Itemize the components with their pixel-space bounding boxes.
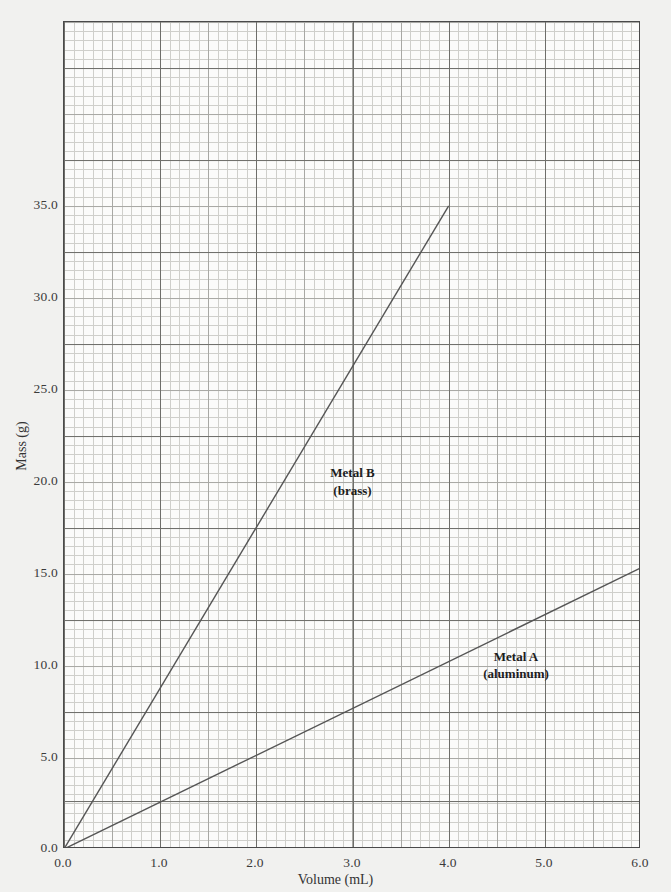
y-tick-label: 30.0 bbox=[12, 289, 58, 305]
series-lines bbox=[64, 22, 640, 848]
annotation-metal-b-line1: Metal B bbox=[330, 465, 374, 480]
line-metal-b bbox=[64, 206, 449, 848]
y-tick-label: 35.0 bbox=[12, 197, 58, 213]
x-tick-label: 3.0 bbox=[322, 855, 382, 871]
x-tick-label: 4.0 bbox=[418, 855, 478, 871]
y-tick-label: 15.0 bbox=[12, 565, 58, 581]
y-tick-label: 25.0 bbox=[12, 381, 58, 397]
x-tick-label: 0.0 bbox=[33, 855, 93, 871]
x-axis-title: Volume (mL) bbox=[0, 872, 671, 888]
y-tick-label: 0.0 bbox=[12, 840, 58, 856]
y-tick-label: 5.0 bbox=[12, 749, 58, 765]
annotation-metal-b: Metal B (brass) bbox=[330, 464, 374, 498]
x-tick-label: 2.0 bbox=[225, 855, 285, 871]
x-tick-label: 5.0 bbox=[514, 855, 574, 871]
y-axis-title-text: Mass (g) bbox=[14, 421, 30, 470]
annotation-metal-b-line2: (brass) bbox=[330, 481, 374, 498]
x-tick-label: 1.0 bbox=[129, 855, 189, 871]
y-tick-label: 10.0 bbox=[12, 657, 58, 673]
graph-figure: Mass (g) 35.0 30.0 25.0 20.0 15.0 10.0 5… bbox=[0, 0, 671, 892]
annotation-metal-a: Metal A (aluminum) bbox=[483, 648, 549, 682]
y-tick-label: 20.0 bbox=[12, 473, 58, 489]
annotation-metal-a-line2: (aluminum) bbox=[483, 665, 549, 682]
annotation-metal-a-line1: Metal A bbox=[494, 649, 538, 664]
plot-area: Metal B (brass) Metal A (aluminum) bbox=[63, 21, 640, 848]
x-tick-label: 6.0 bbox=[610, 855, 670, 871]
line-metal-a bbox=[64, 568, 640, 848]
